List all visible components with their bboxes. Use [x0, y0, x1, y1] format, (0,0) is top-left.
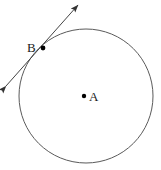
center-point-dot	[82, 94, 86, 98]
tangent-line	[6, 5, 78, 86]
geometry-figure	[0, 0, 161, 170]
tangent-point-dot	[41, 46, 46, 51]
tangent-point-label: B	[27, 41, 36, 54]
figure-canvas: B A	[0, 0, 161, 170]
center-point-label: A	[89, 90, 98, 103]
